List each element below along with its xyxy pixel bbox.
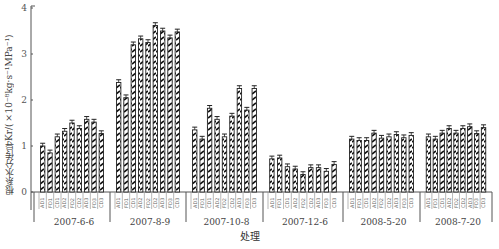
bar-tick-label: CD3	[251, 197, 257, 208]
group-label: 2007-6-6	[54, 217, 95, 227]
bar	[77, 129, 81, 192]
bar-tick-label: CD1	[363, 197, 369, 208]
bar	[175, 32, 179, 192]
bar-tick-label: AD1	[269, 198, 275, 208]
bar-tick-label: AD2	[446, 198, 452, 208]
bar-tick-label: CD1	[439, 197, 445, 208]
bar	[92, 122, 96, 192]
bar-tick-label: FD2	[300, 198, 306, 208]
bar	[116, 83, 120, 192]
bar	[285, 167, 289, 192]
bar	[332, 164, 336, 192]
bar	[70, 123, 74, 192]
bar-chart: 01234 AD1FD1CD1AD2FD2CD2AD3FD3CD32007-6-…	[0, 0, 499, 249]
bar	[153, 25, 157, 192]
bar-tick-label: CD2	[308, 197, 314, 208]
bar-tick-label: AD1	[192, 198, 198, 208]
bar-tick-label: AD2	[371, 198, 377, 208]
bar	[222, 137, 226, 192]
bar-tick-label: AD3	[83, 198, 89, 208]
bar-tick-label: FD3	[91, 198, 97, 208]
bar-tick-label: AD1	[115, 198, 121, 208]
bar	[324, 171, 328, 192]
bar-tick-label: AD1	[349, 198, 355, 208]
bar-tick-label: AD1	[425, 198, 431, 208]
bar	[426, 137, 430, 192]
bar	[357, 140, 361, 192]
y-tick-label: 4	[21, 3, 27, 13]
bar-tick-label: CD3	[98, 197, 104, 208]
bar	[252, 89, 256, 193]
bar-tick-label: CD2	[229, 197, 235, 208]
bar	[379, 138, 383, 192]
bar-tick-label: FD1	[356, 198, 362, 208]
bar	[138, 39, 142, 192]
bar	[293, 169, 297, 192]
bar	[207, 108, 211, 192]
bar-tick-label: CD1	[54, 197, 60, 208]
bar	[270, 159, 274, 192]
bar-tick-label: AD2	[61, 198, 67, 208]
bar-tick-label: AD2	[137, 198, 143, 208]
bar-tick-label: AD2	[292, 198, 298, 208]
bar	[481, 128, 485, 192]
bar-tick-label: FD2	[453, 198, 459, 208]
group-label: 2008-7-20	[435, 217, 481, 227]
bar	[350, 139, 354, 192]
bar	[301, 175, 305, 192]
bar	[215, 119, 219, 192]
bar-tick-label: CD2	[386, 197, 392, 208]
bar	[62, 131, 66, 192]
y-tick-label: 2	[21, 95, 27, 105]
bar-tick-label: FD2	[145, 198, 151, 208]
bar	[468, 127, 472, 192]
bar	[409, 135, 413, 192]
bar	[48, 153, 52, 192]
bar-tick-label: CD2	[152, 197, 158, 208]
bar-tick-label: FD1	[199, 198, 205, 208]
bar	[364, 140, 368, 192]
y-tick-label: 1	[21, 141, 27, 151]
bar	[99, 134, 103, 192]
bar-tick-label: FD3	[401, 198, 407, 208]
bar-tick-label: FD1	[432, 198, 438, 208]
bar-tick-label: CD1	[206, 197, 212, 208]
bar	[40, 146, 44, 192]
group-label: 2007-10-8	[203, 217, 249, 227]
y-tick-label: 3	[21, 49, 27, 59]
bar-tick-label: AD3	[467, 198, 473, 208]
bar	[55, 137, 59, 192]
bar	[372, 133, 376, 192]
bar	[245, 110, 249, 192]
group-label: 2008-5-20	[360, 217, 406, 227]
bars	[40, 23, 486, 192]
bar	[387, 137, 391, 192]
bar-tick-label: CD2	[76, 197, 82, 208]
y-tick-label: 0	[21, 187, 27, 197]
bar	[454, 133, 458, 192]
bar-tick-label: CD3	[480, 197, 486, 208]
bar-tick-label: FD2	[221, 198, 227, 208]
bar	[440, 133, 444, 192]
bar-tick-label: CD3	[408, 197, 414, 208]
bar-tick-label: FD2	[378, 198, 384, 208]
bar-tick-label: AD1	[39, 198, 45, 208]
bar-tick-label: FD2	[69, 198, 75, 208]
bar	[433, 139, 437, 192]
bar-tick-label: AD2	[214, 198, 220, 208]
bar	[402, 138, 406, 192]
bar	[131, 45, 135, 192]
bar-tick-label: FD1	[276, 198, 282, 208]
bar-tick-label: CD3	[331, 197, 337, 208]
bar	[146, 43, 150, 193]
bar	[394, 135, 398, 193]
bar-tick-label: FD1	[47, 198, 53, 208]
bar	[193, 130, 197, 192]
bar	[160, 31, 164, 192]
bar	[309, 168, 313, 192]
bar	[461, 129, 465, 192]
bar	[277, 158, 281, 192]
bar-tick-label: FD3	[167, 198, 173, 208]
bar	[200, 139, 204, 192]
bar-tick-label: AD3	[236, 198, 242, 208]
